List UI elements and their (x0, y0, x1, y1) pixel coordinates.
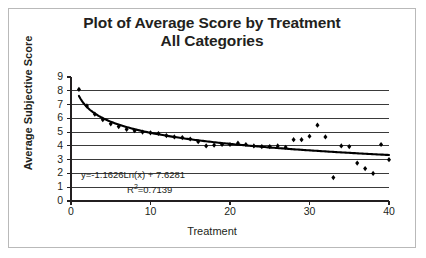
x-tick-label: 0 (56, 205, 86, 217)
y-tick-label: 3 (47, 153, 63, 165)
y-tick-label: 4 (47, 139, 63, 151)
x-tick-label: 10 (136, 205, 166, 217)
y-axis-tick-labels: 0123456789 (45, 77, 63, 201)
trendline-equation-label: y=-1.1626Ln(x) + 7.6281 (81, 169, 185, 180)
x-tick-label: 40 (374, 205, 404, 217)
y-tick-label: 6 (47, 111, 63, 123)
chart-container: Plot of Average Score by Treatment All C… (8, 8, 416, 248)
chart-title-line-2: All Categories (9, 32, 415, 50)
y-tick-label: 9 (47, 70, 63, 82)
y-tick-label: 1 (47, 180, 63, 192)
x-tick-label: 20 (215, 205, 245, 217)
plot-area (71, 77, 389, 201)
y-tick-label: 2 (47, 166, 63, 178)
y-axis-title: Average Subjective Score (22, 29, 34, 177)
chart-title-line-1: Plot of Average Score by Treatment (9, 14, 415, 32)
r-squared-prefix: R (127, 184, 134, 195)
data-points (77, 87, 391, 180)
r-squared-label: R2=0.7139 (127, 183, 172, 195)
axis-lines (67, 77, 389, 205)
x-tick-label: 30 (295, 205, 325, 217)
x-axis-title: Treatment (9, 225, 415, 237)
y-tick-label: 8 (47, 84, 63, 96)
plot-svg (71, 77, 389, 201)
y-tick-label: 5 (47, 125, 63, 137)
x-axis-tick-labels: 010203040 (71, 205, 389, 219)
r-squared-value: =0.7139 (138, 184, 173, 195)
y-tick-label: 7 (47, 98, 63, 110)
chart-title: Plot of Average Score by Treatment All C… (9, 14, 415, 50)
